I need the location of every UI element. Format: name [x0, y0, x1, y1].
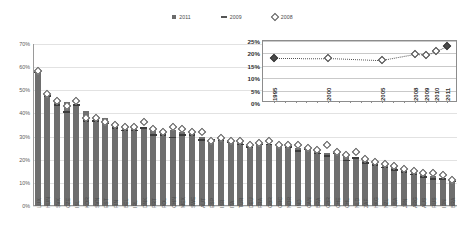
x-axis-tick-label: IND: [296, 199, 302, 208]
bar-group[interactable]: FIN: [112, 44, 118, 206]
bar-group[interactable]: AUT: [199, 44, 205, 206]
x-axis-tick-label: SVN: [94, 198, 100, 208]
x-axis-tick-label: SVK: [55, 198, 61, 208]
bar-group[interactable]: HUN: [44, 44, 50, 206]
inset-x-axis-tick-label: 2011: [445, 88, 451, 101]
x-axis-tick-label: MEX: [181, 197, 187, 208]
x-axis-tick-label: ZAF: [364, 199, 370, 208]
bar-2011[interactable]: [295, 148, 301, 206]
bar-group[interactable]: PRT: [150, 44, 156, 206]
bar-group[interactable]: IRL: [131, 44, 137, 206]
dash-marker-2009: [391, 169, 398, 171]
inset-data-point[interactable]: [421, 51, 429, 59]
bar-group[interactable]: SVK: [54, 44, 60, 206]
bar-2011[interactable]: [218, 139, 224, 206]
legend-label-2011: 2011: [179, 14, 191, 20]
inset-x-axis-tick-label: 1995: [272, 88, 278, 101]
inset-data-point[interactable]: [270, 54, 278, 62]
inset-data-point[interactable]: [410, 50, 418, 58]
bar-group[interactable]: CHN: [170, 44, 176, 206]
inset-x-axis-tick: [447, 101, 448, 103]
bar-2011[interactable]: [35, 72, 41, 206]
bar-group[interactable]: BEL: [122, 44, 128, 206]
bar-2011[interactable]: [54, 100, 60, 206]
bar-group[interactable]: ISL: [73, 44, 79, 206]
bar-group[interactable]: SVN: [93, 44, 99, 206]
bar-2011[interactable]: [93, 116, 99, 206]
bar-2011[interactable]: [44, 93, 50, 206]
bar-2011[interactable]: [131, 125, 137, 206]
inset-gridline: [263, 41, 456, 42]
inset-x-axis-tick-label: 2000: [326, 88, 332, 101]
bar-2011[interactable]: [256, 144, 262, 206]
bar-group[interactable]: DNK: [141, 44, 147, 206]
y-axis-tick-label: 60%: [19, 64, 30, 70]
x-axis-tick-label: BRA: [316, 198, 322, 208]
x-axis-tick-label: GBR: [267, 197, 273, 208]
x-axis-tick-label: NLD: [354, 198, 360, 208]
bar-2011[interactable]: [112, 123, 118, 206]
bar-2011[interactable]: [189, 132, 195, 206]
inset-data-point[interactable]: [378, 56, 386, 64]
bar-group[interactable]: MEX: [179, 44, 185, 206]
inset-x-axis-tick: [382, 101, 383, 103]
bar-group[interactable]: KOR: [83, 44, 89, 206]
bar-2011[interactable]: [228, 141, 234, 206]
bar-2011[interactable]: [179, 132, 185, 206]
x-axis-tick-label: HKG: [373, 197, 379, 208]
bar-swatch-icon: [172, 15, 176, 19]
bar-group[interactable]: SWE: [189, 44, 195, 206]
inset-data-point[interactable]: [443, 42, 451, 50]
bar-2011[interactable]: [170, 130, 176, 206]
inset-y-axis-tick-label: 5%: [251, 87, 260, 94]
bar-group[interactable]: POL: [160, 44, 166, 206]
bar-2011[interactable]: [199, 137, 205, 206]
x-axis-tick-label: CZE: [65, 198, 71, 208]
x-axis-tick-label: ARG: [412, 197, 418, 208]
legend-item-2011: 2011: [172, 14, 191, 20]
x-axis-tick-label: CHL: [345, 198, 351, 208]
bar-group[interactable]: LUX: [35, 44, 41, 206]
bar-2011[interactable]: [150, 127, 156, 206]
bar-2011[interactable]: [122, 125, 128, 206]
y-axis-tick-label: 70%: [19, 41, 30, 47]
bar-2011[interactable]: [160, 130, 166, 206]
inset-data-point[interactable]: [324, 54, 332, 62]
inset-y-axis-tick-label: 20%: [248, 50, 260, 57]
inset-plot-area: 0%5%10%15%20%25%199520002005200820092010…: [262, 40, 457, 102]
x-axis-tick-label: LUX: [36, 198, 42, 208]
bar-2011[interactable]: [141, 127, 147, 206]
bar-2011[interactable]: [237, 141, 243, 206]
dash-marker-2009: [63, 111, 70, 113]
bar-group[interactable]: EST: [102, 44, 108, 206]
inset-y-axis-tick-label: 15%: [248, 62, 260, 69]
bar-2011[interactable]: [83, 111, 89, 206]
y-axis-tick-label: 20%: [19, 157, 30, 163]
x-axis-tick-label: TUR: [239, 198, 245, 208]
x-axis-tick-label: FRA: [258, 198, 264, 208]
chart-legend: 2011 2009 2008: [0, 10, 465, 24]
dash-marker-2009: [295, 150, 302, 152]
inset-x-axis-tick-label: 2005: [380, 88, 386, 101]
inset-x-axis-tick: [436, 101, 437, 103]
x-axis-tick-label: AUT: [200, 198, 206, 208]
bar-2011[interactable]: [64, 102, 70, 206]
inset-y-axis-tick-label: 0%: [251, 100, 260, 107]
x-axis-tick-label: SWE: [190, 197, 196, 208]
y-axis-tick-label: 0%: [22, 203, 30, 209]
inset-x-axis-tick-label: 2010: [434, 88, 440, 101]
diamond-marker-2008: [198, 127, 206, 135]
bar-2011[interactable]: [208, 139, 214, 206]
bar-2011[interactable]: [102, 118, 108, 206]
x-axis-tick-label: FIN: [113, 200, 119, 208]
inset-x-axis-tick: [328, 101, 329, 103]
bar-group[interactable]: CZE: [64, 44, 70, 206]
inset-x-axis-tick: [371, 101, 372, 103]
dash-marker-icon: [221, 16, 227, 18]
x-axis-tick-label: CAN: [306, 197, 312, 208]
x-axis-tick-label: CHN: [171, 197, 177, 208]
x-axis-tick-label: NZL: [383, 199, 389, 208]
bar-2011[interactable]: [73, 104, 79, 206]
inset-x-axis-tick: [274, 101, 275, 103]
inset-x-axis-tick: [361, 101, 362, 103]
